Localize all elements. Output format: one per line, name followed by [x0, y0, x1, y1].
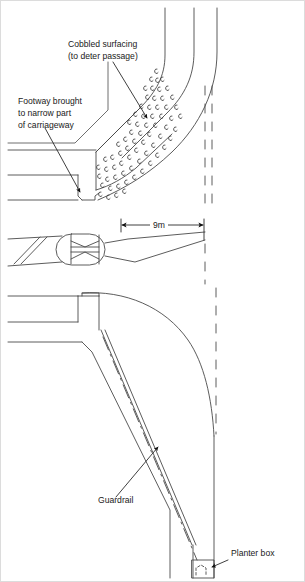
cobbled-surfacing-label-line2: (to deter passage) — [68, 51, 138, 61]
guardrail-label: Guardrail — [98, 495, 133, 505]
junction-diagram-figure: Cobbled surfacing (to deter passage) Foo… — [0, 0, 305, 582]
footway-label-line3: of carriageway — [18, 120, 75, 130]
footway-label-line2: to narrow part — [18, 108, 72, 118]
figure-border — [1, 1, 305, 582]
cobbled-surfacing-label-line1: Cobbled surfacing — [68, 39, 137, 49]
footway-label-line1: Footway brought — [18, 96, 83, 106]
planter-box-label: Planter box — [231, 548, 275, 558]
dimension-label-9m: 9m — [153, 220, 165, 230]
junction-diagram-svg: Cobbled surfacing (to deter passage) Foo… — [0, 0, 305, 582]
